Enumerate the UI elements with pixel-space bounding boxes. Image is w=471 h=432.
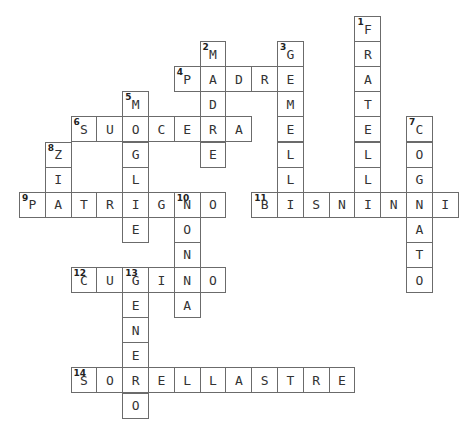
cell-letter: M bbox=[132, 97, 140, 112]
crossword-cell[interactable]: O bbox=[122, 393, 149, 419]
crossword-cell[interactable]: S bbox=[251, 367, 278, 393]
crossword-cell[interactable]: I bbox=[354, 192, 381, 218]
crossword-cell[interactable]: R bbox=[200, 116, 227, 142]
crossword-cell[interactable]: E bbox=[277, 66, 304, 92]
crossword-cell[interactable]: L bbox=[354, 142, 381, 168]
crossword-cell[interactable]: T bbox=[406, 242, 433, 268]
cell-letter: U bbox=[106, 122, 114, 137]
crossword-cell[interactable]: O bbox=[406, 267, 433, 293]
crossword-cell[interactable]: A bbox=[225, 367, 252, 393]
cell-letter: A bbox=[235, 122, 243, 137]
cell-letter: O bbox=[183, 222, 191, 237]
crossword-cell[interactable]: 5M bbox=[122, 91, 149, 117]
crossword-cell[interactable]: O bbox=[406, 142, 433, 168]
crossword-cell[interactable]: D bbox=[225, 66, 252, 92]
crossword-cell[interactable]: 3G bbox=[277, 41, 304, 67]
crossword-cell[interactable]: I bbox=[148, 267, 175, 293]
crossword-cell[interactable]: O bbox=[200, 192, 227, 218]
crossword-cell[interactable]: M bbox=[277, 91, 304, 117]
crossword-cell[interactable]: T bbox=[354, 91, 381, 117]
crossword-cell[interactable]: E bbox=[122, 217, 149, 243]
crossword-cell[interactable]: N bbox=[406, 192, 433, 218]
crossword-cell[interactable]: I bbox=[122, 192, 149, 218]
crossword-cell[interactable]: 11B bbox=[251, 192, 278, 218]
crossword-cell[interactable]: O bbox=[96, 367, 123, 393]
crossword-cell[interactable]: 14S bbox=[71, 367, 98, 393]
crossword-cell[interactable]: N bbox=[174, 267, 201, 293]
cell-letter: R bbox=[106, 197, 114, 212]
crossword-cell[interactable]: A bbox=[225, 116, 252, 142]
crossword-cell[interactable]: N bbox=[122, 317, 149, 343]
crossword-cell[interactable]: G bbox=[406, 167, 433, 193]
cell-letter: F bbox=[364, 22, 372, 37]
crossword-cell[interactable]: 1F bbox=[354, 16, 381, 42]
cell-letter: L bbox=[183, 373, 191, 388]
crossword-cell[interactable]: I bbox=[432, 192, 459, 218]
cell-letter: E bbox=[286, 122, 294, 137]
crossword-cell[interactable]: L bbox=[200, 367, 227, 393]
crossword-cell[interactable]: A bbox=[200, 66, 227, 92]
crossword-cell[interactable]: N bbox=[329, 192, 356, 218]
crossword-cell[interactable]: R bbox=[96, 192, 123, 218]
crossword-cell[interactable]: C bbox=[148, 116, 175, 142]
crossword-cell[interactable]: U bbox=[96, 267, 123, 293]
crossword-cell[interactable]: E bbox=[122, 292, 149, 318]
crossword-cell[interactable]: E bbox=[329, 367, 356, 393]
crossword-cell[interactable]: D bbox=[200, 91, 227, 117]
crossword-cell[interactable]: 7C bbox=[406, 116, 433, 142]
cell-letter: E bbox=[364, 122, 372, 137]
cell-letter: E bbox=[286, 72, 294, 87]
crossword-cell[interactable]: T bbox=[71, 192, 98, 218]
crossword-cell[interactable]: L bbox=[354, 167, 381, 193]
crossword-cell[interactable]: 12C bbox=[71, 267, 98, 293]
cell-letter: D bbox=[235, 72, 243, 87]
cell-letter: C bbox=[80, 273, 88, 288]
crossword-cell[interactable]: L bbox=[277, 167, 304, 193]
crossword-cell[interactable]: 10N bbox=[174, 192, 201, 218]
crossword-cell[interactable]: R bbox=[251, 66, 278, 92]
crossword-cell[interactable]: A bbox=[45, 192, 72, 218]
crossword-cell[interactable]: 9P bbox=[19, 192, 46, 218]
crossword-cell[interactable]: I bbox=[45, 167, 72, 193]
crossword-cell[interactable]: G bbox=[122, 142, 149, 168]
crossword-cell[interactable]: R bbox=[354, 41, 381, 67]
crossword-cell[interactable]: A bbox=[406, 217, 433, 243]
crossword-cell[interactable]: L bbox=[277, 142, 304, 168]
crossword-cell[interactable]: E bbox=[174, 116, 201, 142]
crossword-cell[interactable]: A bbox=[174, 292, 201, 318]
cell-letter: S bbox=[261, 373, 269, 388]
cell-letter: T bbox=[286, 373, 294, 388]
crossword-cell[interactable]: O bbox=[174, 217, 201, 243]
crossword-cell[interactable]: R bbox=[303, 367, 330, 393]
cell-letter: U bbox=[106, 273, 114, 288]
cell-letter: R bbox=[261, 72, 269, 87]
crossword-cell[interactable]: E bbox=[200, 142, 227, 168]
cell-letter: N bbox=[132, 323, 140, 338]
crossword-cell[interactable]: L bbox=[122, 167, 149, 193]
crossword-cell[interactable]: U bbox=[96, 116, 123, 142]
crossword-cell[interactable]: I bbox=[277, 192, 304, 218]
cell-letter: L bbox=[364, 147, 372, 162]
crossword-cell[interactable]: 6S bbox=[71, 116, 98, 142]
crossword-cell[interactable]: 13G bbox=[122, 267, 149, 293]
crossword-cell[interactable]: O bbox=[200, 267, 227, 293]
crossword-cell[interactable]: O bbox=[122, 116, 149, 142]
cell-letter: I bbox=[54, 172, 62, 187]
crossword-cell[interactable]: E bbox=[122, 342, 149, 368]
crossword-cell[interactable]: A bbox=[354, 66, 381, 92]
cell-letter: A bbox=[415, 222, 423, 237]
crossword-cell[interactable]: N bbox=[380, 192, 407, 218]
crossword-cell[interactable]: 4P bbox=[174, 66, 201, 92]
crossword-cell[interactable]: N bbox=[174, 242, 201, 268]
crossword-cell[interactable]: G bbox=[148, 192, 175, 218]
crossword-cell[interactable]: S bbox=[303, 192, 330, 218]
crossword-cell[interactable]: E bbox=[277, 116, 304, 142]
crossword-cell[interactable]: E bbox=[354, 116, 381, 142]
crossword-cell[interactable]: L bbox=[174, 367, 201, 393]
crossword-cell[interactable]: E bbox=[148, 367, 175, 393]
crossword-cell[interactable]: 8Z bbox=[45, 142, 72, 168]
crossword-cell[interactable]: 2M bbox=[200, 41, 227, 67]
crossword-cell[interactable]: R bbox=[122, 367, 149, 393]
cell-letter: T bbox=[364, 97, 372, 112]
crossword-cell[interactable]: T bbox=[277, 367, 304, 393]
